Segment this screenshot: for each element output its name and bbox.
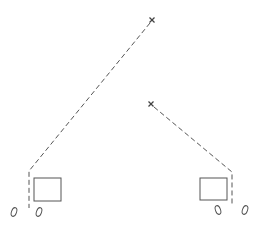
left-ellipses <box>10 207 43 217</box>
right-dashed-line <box>154 107 232 206</box>
ellipse-shape <box>214 205 222 215</box>
left-box <box>34 178 61 201</box>
ellipse-shape <box>241 205 249 215</box>
marker-middle <box>149 102 154 107</box>
right-group <box>154 107 249 215</box>
left-group <box>10 23 150 217</box>
right-box <box>200 178 227 200</box>
right-ellipses <box>214 205 249 215</box>
diagram-canvas <box>0 0 263 232</box>
ellipse-shape <box>10 207 18 217</box>
ellipse-shape <box>35 207 43 217</box>
left-dashed-line <box>29 23 150 208</box>
marker-top <box>150 18 155 23</box>
